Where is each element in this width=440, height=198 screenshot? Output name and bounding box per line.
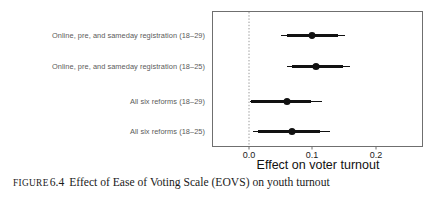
- row-label-3: All six reforms (18–29): [130, 97, 205, 106]
- figure-caption: FIGURE6.4Effect of Ease of Voting Scale …: [13, 176, 433, 189]
- figure-container: Online, pre, and sameday registration (1…: [0, 0, 440, 198]
- chart-svg: Online, pre, and sameday registration (1…: [0, 0, 440, 170]
- coefficient-plot: Online, pre, and sameday registration (1…: [0, 0, 440, 170]
- estimate-marker-1: [309, 32, 316, 39]
- estimate-marker-4: [289, 128, 296, 135]
- figure-number: 6.4: [50, 176, 65, 189]
- figure-number-prefix: FIGURE: [13, 178, 49, 188]
- plot-panel-frame: [213, 12, 423, 147]
- xtick-label-0: 0.0: [243, 150, 256, 160]
- row-label-2: Online, pre, and sameday registration (1…: [52, 62, 205, 71]
- estimate-marker-3: [284, 98, 291, 105]
- row-label-1: Online, pre, and sameday registration (1…: [52, 31, 205, 40]
- x-axis-title: Effect on voter turnout: [257, 158, 380, 170]
- estimate-marker-2: [312, 63, 319, 70]
- figure-caption-text: Effect of Ease of Voting Scale (EOVS) on…: [69, 176, 330, 189]
- row-label-4: All six reforms (18–25): [130, 127, 205, 136]
